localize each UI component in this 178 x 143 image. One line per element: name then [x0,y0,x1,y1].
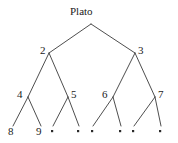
tree-node-5: 5 [71,89,77,100]
tree-edge-n3-n7 [135,53,155,97]
tree-edge-root-n2 [49,24,91,53]
tree-leaf-dot-leaf7 [132,130,134,132]
tree-node-2: 2 [40,45,46,56]
leaf-dot-group [51,130,161,132]
tree-edge-n2-n5 [49,53,68,97]
tree-edges-canvas [0,0,178,143]
tree-edge-n5-leaf4 [68,97,79,126]
tree-leaf-8: 8 [8,126,14,137]
tree-edge-n3-n6 [113,53,135,97]
tree-edge-root-n3 [91,24,135,53]
edge-group [13,24,161,126]
tree-leaf-dot-leaf5 [91,130,93,132]
tree-node-3: 3 [138,45,144,56]
tree-edge-n7-leaf7 [134,97,155,126]
tree-leaf-dot-leaf6 [119,130,121,132]
tree-edge-n6-leaf5 [93,97,113,126]
tree-node-6: 6 [102,89,108,100]
tree-edge-n5-leaf3 [53,97,68,126]
tree-node-4: 4 [17,89,23,100]
tree-leaf-9: 9 [36,126,42,137]
tree-leaf-dot-leaf4 [77,130,79,132]
tree-edge-n2-n4 [28,53,49,97]
tree-node-root: Plato [70,6,93,17]
tree-leaf-dot-leaf3 [51,130,53,132]
tree-edge-n7-leaf8 [155,97,161,126]
tree-edge-n6-leaf6 [113,97,121,126]
tree-node-7: 7 [158,89,164,100]
tree-edge-n4-leaf1 [13,97,28,126]
binary-tree-figure: Plato 2 3 4 5 6 7 8 9 [0,0,178,143]
tree-leaf-dot-leaf8 [159,130,161,132]
tree-edge-n4-leaf2 [28,97,41,126]
